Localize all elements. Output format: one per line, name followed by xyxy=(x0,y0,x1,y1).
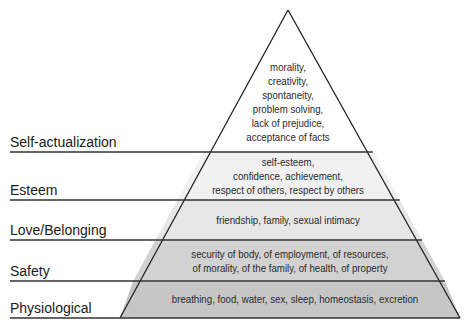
desc-physiological: breathing, food, water, sex, sleep, home… xyxy=(167,292,422,306)
desc-line: friendship, family, sexual intimacy xyxy=(191,213,385,227)
desc-safety: security of body, of employment, of reso… xyxy=(176,247,405,275)
desc-line: problem solving, xyxy=(200,102,376,116)
desc-line: respect of others, respect by others xyxy=(191,183,385,197)
label-love-belonging: Love/Belonging xyxy=(10,222,107,238)
desc-line: acceptance of facts xyxy=(200,130,376,144)
desc-love-belonging: friendship, family, sexual intimacy xyxy=(191,213,385,227)
desc-line: breathing, food, water, sex, sleep, home… xyxy=(167,292,422,306)
desc-line: creativity, xyxy=(200,74,376,88)
desc-line: lack of prejudice, xyxy=(200,116,376,130)
desc-line: spontaneity, xyxy=(200,88,376,102)
desc-line: self-esteem, xyxy=(191,155,385,169)
label-safety: Safety xyxy=(10,263,50,279)
desc-esteem: self-esteem, confidence, achievement, re… xyxy=(191,155,385,197)
desc-line: confidence, achievement, xyxy=(191,169,385,183)
desc-line: of morality, of the family, of health, o… xyxy=(176,261,405,275)
desc-line: security of body, of employment, of reso… xyxy=(176,247,405,261)
desc-line: morality, xyxy=(200,60,376,74)
label-physiological: Physiological xyxy=(10,300,92,316)
label-self-actualization: Self-actualization xyxy=(10,134,117,150)
desc-self-actualization: morality, creativity, spontaneity, probl… xyxy=(200,60,376,144)
label-esteem: Esteem xyxy=(10,182,57,198)
